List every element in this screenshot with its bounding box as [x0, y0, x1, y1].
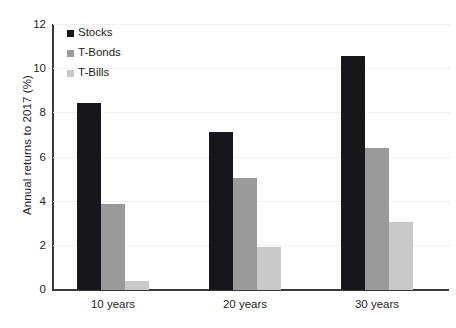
y-axis-tick-label: 2	[24, 240, 46, 252]
bar-stocks-30-years	[341, 56, 365, 290]
y-axis-tick-label: 0	[24, 284, 46, 296]
y-axis-tick-label: 6	[24, 152, 46, 164]
x-axis-tick-label: 30 years	[355, 298, 399, 310]
gridline	[53, 112, 449, 113]
x-axis-tick-label: 10 years	[91, 298, 135, 310]
bar-t-bonds-30-years	[365, 148, 389, 290]
y-axis-tick-label: 12	[24, 19, 46, 31]
bar-stocks-10-years	[77, 103, 101, 290]
legend-item-stocks[interactable]: Stocks	[67, 26, 121, 40]
x-axis-tick-labels: 10 years20 years30 years	[53, 298, 449, 318]
bar-t-bonds-10-years	[101, 204, 125, 290]
gridline	[53, 157, 449, 158]
chart-legend: StocksT-BondsT-Bills	[67, 26, 121, 80]
bar-stocks-20-years	[209, 132, 233, 290]
y-axis-tick-label: 10	[24, 63, 46, 75]
legend-item-t-bills[interactable]: T-Bills	[67, 66, 121, 80]
legend-label: T-Bills	[78, 67, 109, 79]
bar-t-bills-10-years	[125, 281, 149, 290]
bar-t-bills-30-years	[389, 222, 413, 290]
legend-item-t-bonds[interactable]: T-Bonds	[67, 46, 121, 60]
x-axis-tick-label: 20 years	[223, 298, 267, 310]
legend-label: T-Bonds	[78, 47, 121, 59]
bar-t-bills-20-years	[257, 247, 281, 290]
legend-label: Stocks	[78, 27, 113, 39]
legend-swatch-icon	[67, 50, 74, 57]
y-axis-tick-labels: 024681012	[22, 0, 46, 328]
bar-chart: Annual returns to 2017 (%) 024681012 10 …	[0, 0, 456, 328]
legend-swatch-icon	[67, 70, 74, 77]
bar-t-bonds-20-years	[233, 178, 257, 290]
gridline	[53, 24, 449, 25]
y-axis-tick-label: 4	[24, 196, 46, 208]
y-axis-tick-label: 8	[24, 108, 46, 120]
legend-swatch-icon	[67, 30, 74, 37]
